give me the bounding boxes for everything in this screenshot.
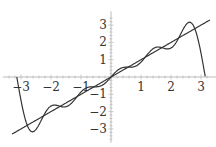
x-tick-label: −3 [12, 80, 30, 94]
y-tick-label: −3 [89, 122, 107, 136]
x-tick-label: 3 [197, 80, 205, 94]
fourier-plot: −3−2−1123−3−2−1123 [0, 0, 216, 147]
y-tick-label: −1 [89, 87, 107, 101]
y-tick-label: 3 [99, 18, 107, 32]
x-tick-label: 1 [137, 80, 145, 94]
x-tick-label: −2 [42, 80, 60, 94]
x-tick-label: 2 [167, 80, 175, 94]
y-tick-label: −2 [89, 105, 107, 119]
y-tick-label: 2 [99, 35, 107, 49]
y-tick-label: 1 [99, 53, 107, 67]
axes [3, 11, 216, 142]
